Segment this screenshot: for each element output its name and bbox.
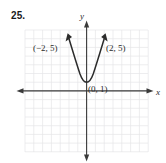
graph-svg: (−2, 5) (2, 5) (0, 1) x y [0,0,166,163]
figure-page: 25. [0,0,166,163]
axis-label-y: y [79,11,84,21]
axis-label-x: x [155,87,160,97]
y-axis-arrow-down [84,155,89,162]
point-label-right: (2, 5) [106,43,126,53]
y-axis-arrow-up [84,21,89,28]
x-axis-arrow-right [147,88,154,93]
point-label-vertex: (0, 1) [88,84,108,94]
x-axis-arrow-left [17,88,24,93]
coordinate-graph-figure: (−2, 5) (2, 5) (0, 1) x y [0,0,166,163]
point-label-left: (−2, 5) [33,43,58,53]
x-axis [17,88,154,93]
